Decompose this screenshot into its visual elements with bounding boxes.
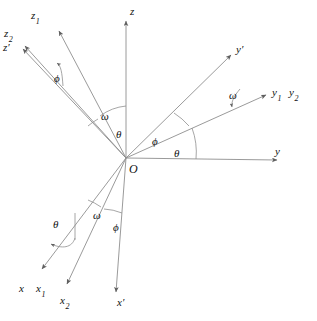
axis-label-x-prime: x′ <box>117 297 124 308</box>
axis-line-x-x1 <box>42 158 126 269</box>
axis-line-z-prime <box>23 49 126 158</box>
arc-phi-lower <box>104 209 122 213</box>
axis-label-y-prime: y′ <box>236 44 243 55</box>
axis-label-z1: z1 <box>31 10 39 24</box>
axis-label-x1: x1 <box>36 283 45 297</box>
figure-canvas: z z1 z2 z′ y′ y1 y2 y x x1 x2 x′ O ϕ ω θ… <box>0 0 317 321</box>
angle-label-theta-lower-left: θ <box>53 219 58 230</box>
axis-label-y2: y2 <box>289 87 298 101</box>
axis-line-y-prime <box>126 55 231 158</box>
axis-label-z: z <box>130 6 134 17</box>
diagram-svg <box>0 0 317 321</box>
arrow-theta-lower-left <box>51 238 75 247</box>
angle-label-theta-upper-left: θ <box>116 129 121 140</box>
axis-subscript-x2: 2 <box>65 302 69 311</box>
axis-subscript-y2: 2 <box>294 94 298 103</box>
axis-label-x2: x2 <box>60 295 69 309</box>
axis-subscript-x1: 1 <box>41 290 45 299</box>
prime-mark-y: ′ <box>241 43 243 55</box>
angle-label-phi-right: ϕ <box>152 136 158 147</box>
arc-phi-right <box>174 113 189 126</box>
arc-theta-right <box>192 128 196 159</box>
axis-label-x: x <box>19 283 24 294</box>
axis-line-y <box>126 158 277 160</box>
angle-label-phi-lower: ϕ <box>113 222 119 233</box>
angle-label-omega-upper-left: ω <box>101 111 109 122</box>
prime-mark-z: ′ <box>7 41 9 53</box>
prime-mark-x: ′ <box>122 296 124 308</box>
angle-label-theta-right: θ <box>174 148 179 159</box>
axis-label-y1: y1 <box>272 87 281 101</box>
angle-label-omega-right: ω <box>229 90 237 101</box>
axis-label-z-prime: z′ <box>3 42 10 53</box>
axis-label-y: y <box>275 146 280 157</box>
angle-label-phi-upper-left: ϕ <box>54 73 60 84</box>
angle-label-omega-lower: ω <box>93 210 101 221</box>
axis-subscript-z1: 1 <box>36 17 40 26</box>
axis-subscript-y1: 1 <box>277 94 281 103</box>
origin-label: O <box>129 163 138 175</box>
